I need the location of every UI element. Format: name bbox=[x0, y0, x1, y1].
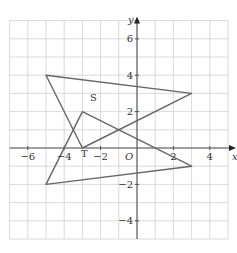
y-tick-label: 6 bbox=[127, 33, 133, 44]
shape-label-s: S bbox=[90, 92, 97, 103]
x-tick-label: 4 bbox=[207, 151, 213, 162]
origin-label: O bbox=[125, 151, 133, 162]
y-tick-label: 4 bbox=[127, 70, 133, 81]
coordinate-plane: −6−4−224642−2−4xyOST bbox=[0, 0, 237, 253]
x-tick-label: −6 bbox=[20, 151, 35, 162]
shape-label-t: T bbox=[81, 148, 88, 159]
y-tick-label: 2 bbox=[127, 106, 133, 117]
labels: −6−4−224642−2−4xyOST bbox=[20, 14, 237, 227]
y-axis-label: y bbox=[127, 14, 134, 25]
y-tick-label: −4 bbox=[118, 215, 133, 226]
x-axis-label: x bbox=[232, 151, 237, 162]
y-axis-arrow-icon bbox=[134, 17, 140, 24]
y-tick-label: −2 bbox=[118, 179, 133, 190]
x-tick-label: 2 bbox=[170, 151, 176, 162]
x-tick-label: −2 bbox=[93, 151, 108, 162]
x-tick-label: −4 bbox=[57, 151, 72, 162]
